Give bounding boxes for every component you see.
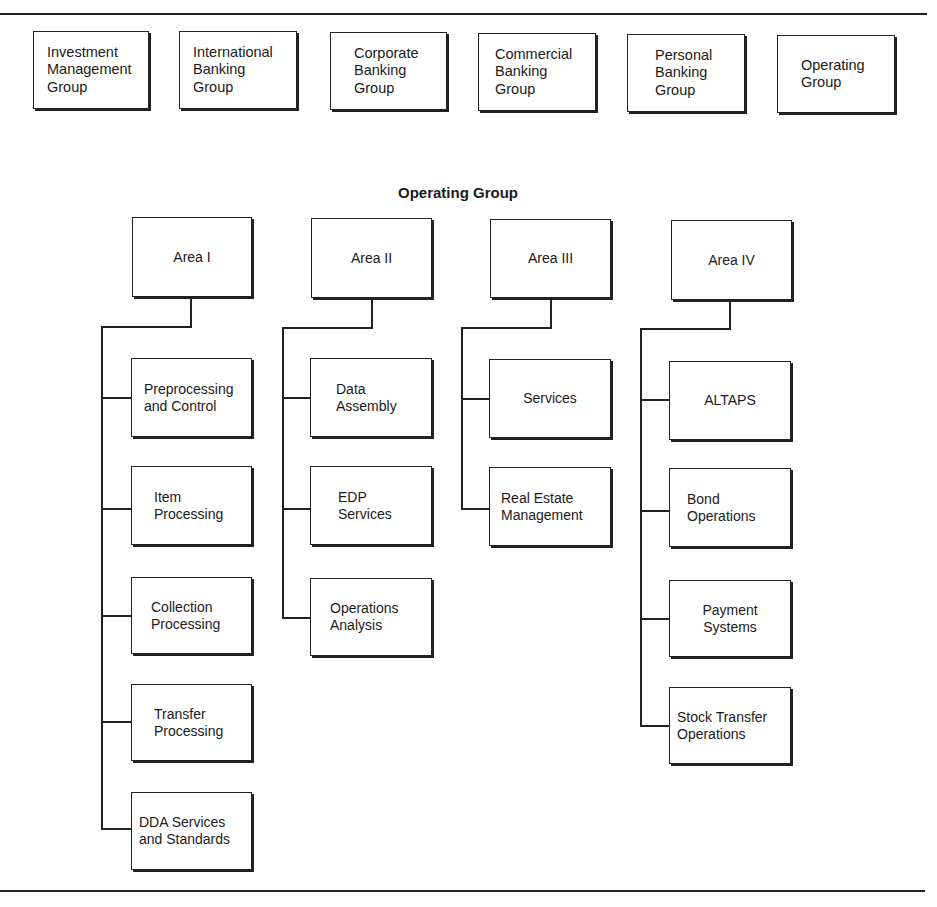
area-label: Area II [351, 250, 392, 267]
group-label: Corporate Banking Group [354, 45, 418, 98]
connector-line [190, 297, 192, 327]
unit-box-transfer-processing: Transfer Processing [131, 684, 252, 761]
unit-box-dda-services-and-standards: DDA Services and Standards [131, 792, 252, 870]
group-label: Commercial Banking Group [495, 46, 572, 99]
unit-box-altaps: ALTAPS [669, 361, 791, 440]
unit-label: Stock Transfer Operations [677, 709, 767, 743]
group-label: International Banking Group [193, 44, 273, 97]
group-label: Operating Group [801, 57, 865, 92]
trunk-line [461, 327, 463, 509]
unit-label: Real Estate Management [501, 490, 583, 524]
connector-line [101, 721, 132, 723]
connector-line [282, 508, 311, 510]
connector-line [282, 327, 373, 329]
group-box-corporate-banking: Corporate Banking Group [330, 32, 447, 110]
group-box-international-banking: International Banking Group [179, 31, 297, 109]
area-box-area-4: Area IV [671, 220, 792, 300]
group-label: Investment Management Group [47, 44, 132, 97]
unit-label: ALTAPS [704, 392, 756, 409]
unit-box-edp-services: EDP Services [310, 466, 432, 545]
group-box-commercial-banking: Commercial Banking Group [478, 33, 596, 111]
unit-label: Item Processing [154, 489, 223, 523]
unit-label: Preprocessing and Control [144, 381, 234, 415]
group-box-operating: Operating Group [777, 35, 895, 113]
connector-line [101, 828, 132, 830]
unit-box-services: Services [489, 359, 611, 438]
unit-label: EDP Services [338, 489, 392, 523]
connector-line [640, 618, 670, 620]
connector-line [461, 398, 490, 400]
unit-box-data-assembly: Data Assembly [310, 358, 432, 437]
area-box-area-2: Area II [311, 218, 432, 298]
unit-label: Payment Systems [702, 602, 757, 636]
area-label: Area I [173, 249, 210, 266]
section-title: Operating Group [398, 184, 518, 201]
unit-label: DDA Services and Standards [139, 814, 230, 848]
trunk-line [101, 326, 103, 829]
unit-label: Operations Analysis [330, 600, 398, 634]
area-box-area-1: Area I [132, 217, 252, 297]
unit-box-real-estate-management: Real Estate Management [489, 467, 611, 546]
connector-line [101, 615, 132, 617]
area-label: Area IV [708, 252, 755, 269]
group-box-personal-banking: Personal Banking Group [627, 34, 745, 112]
connector-line [461, 327, 552, 329]
connector-line [729, 300, 731, 329]
connector-line [640, 510, 670, 512]
connector-line [101, 326, 192, 328]
unit-box-preprocessing-and-control: Preprocessing and Control [131, 358, 252, 437]
unit-box-collection-processing: Collection Processing [131, 577, 252, 654]
connector-line [101, 508, 132, 510]
area-label: Area III [528, 250, 573, 267]
unit-box-payment-systems: Payment Systems [669, 580, 791, 657]
trunk-line [282, 327, 284, 618]
connector-line [282, 617, 311, 619]
connector-line [640, 328, 731, 330]
unit-label: Bond Operations [687, 491, 755, 525]
connector-line [461, 508, 490, 510]
connector-line [371, 298, 373, 328]
area-box-area-3: Area III [490, 219, 611, 298]
unit-label: Data Assembly [336, 381, 397, 415]
unit-box-stock-transfer-operations: Stock Transfer Operations [669, 687, 791, 764]
unit-box-bond-operations: Bond Operations [669, 468, 791, 547]
connector-line [282, 397, 311, 399]
unit-label: Services [523, 390, 577, 407]
connector-line [640, 725, 670, 727]
trunk-line [640, 328, 642, 726]
top-rule [0, 13, 927, 15]
connector-line [640, 399, 670, 401]
unit-label: Transfer Processing [154, 706, 223, 740]
connector-line [550, 298, 552, 328]
group-label: Personal Banking Group [655, 47, 712, 100]
unit-box-item-processing: Item Processing [131, 466, 252, 545]
bottom-rule [0, 890, 925, 892]
unit-box-operations-analysis: Operations Analysis [310, 578, 432, 656]
group-box-investment-management: Investment Management Group [33, 31, 149, 109]
unit-label: Collection Processing [151, 599, 220, 633]
connector-line [101, 397, 132, 399]
